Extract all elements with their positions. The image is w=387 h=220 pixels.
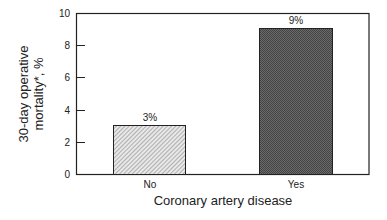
data-label-yes: 9% (289, 15, 304, 26)
y-tick-10: 10 (59, 8, 71, 19)
y-axis: 0 2 4 6 8 10 (59, 8, 85, 180)
x-axis-label: Coronary artery disease (154, 193, 293, 208)
y-tick-0: 0 (64, 169, 70, 180)
svg-text:30-day operative: 30-day operative (16, 46, 31, 143)
x-category-no: No (144, 179, 157, 190)
y-tick-2: 2 (64, 137, 70, 148)
bar-yes (260, 29, 333, 175)
y-axis-label: 30-day operative mortality*, % (16, 46, 46, 143)
y-tick-4: 4 (64, 105, 70, 116)
y-tick-8: 8 (64, 40, 70, 51)
x-category-yes: Yes (288, 179, 304, 190)
svg-text:mortality*, %: mortality*, % (31, 57, 46, 130)
data-label-no: 3% (143, 112, 158, 123)
bar-chart: 0 2 4 6 8 10 30-day operative mortality*… (0, 0, 387, 220)
y-tick-6: 6 (64, 72, 70, 83)
bar-no (114, 126, 186, 175)
